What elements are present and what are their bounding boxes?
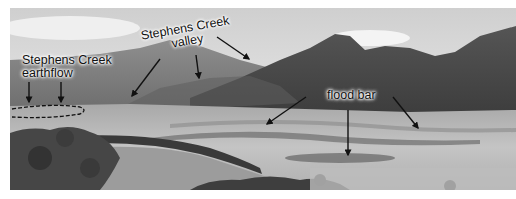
arrow-valley-2	[196, 55, 199, 78]
label-flood-bar: flood bar	[327, 89, 376, 102]
arrow-flood-bar-3	[393, 97, 418, 128]
annotation-overlay	[0, 0, 516, 199]
label-earthflow-line2: earthflow	[22, 67, 112, 80]
label-earthflow: Stephens Creek earthflow	[22, 54, 112, 80]
earthflow-outline	[12, 105, 84, 117]
arrow-valley-1	[132, 59, 160, 96]
arrow-flood-bar-1	[267, 97, 306, 124]
